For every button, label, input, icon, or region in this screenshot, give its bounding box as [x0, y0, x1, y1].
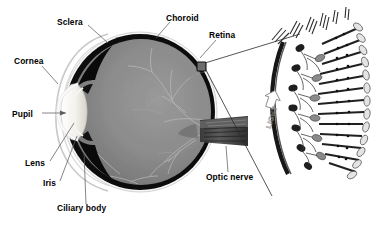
leader-retina	[200, 40, 216, 58]
label-pupil: Pupil	[12, 109, 33, 119]
leader-sclera	[88, 25, 108, 43]
label-lens: Lens	[25, 158, 45, 168]
label-choroid: Choroid	[166, 13, 199, 23]
inset-photoreceptor-rods	[318, 28, 364, 172]
vitreous-body	[71, 39, 211, 185]
leader-cornea	[42, 66, 58, 84]
eye-diagram-canvas: LIGHT Sclera Cornea Pupil Lens Iris Cili…	[0, 0, 392, 226]
eye-anatomy-figure: LIGHT Sclera Cornea Pupil Lens Iris Cili…	[0, 0, 392, 226]
retina-inset: LIGHT	[262, 7, 371, 180]
inset-photoreceptor-beads	[335, 33, 351, 161]
leader-optic-nerve	[226, 146, 228, 172]
label-retina: Retina	[209, 30, 235, 40]
label-cornea: Cornea	[14, 56, 44, 66]
inset-ganglion-cells	[288, 43, 314, 171]
retina-magnification-box	[197, 62, 206, 71]
label-optic-nerve: Optic nerve	[206, 172, 253, 182]
label-sclera: Sclera	[57, 17, 83, 27]
label-iris: Iris	[43, 178, 56, 188]
inset-ganglion-axons	[272, 7, 349, 44]
label-ciliary-body: Ciliary body	[57, 203, 106, 213]
